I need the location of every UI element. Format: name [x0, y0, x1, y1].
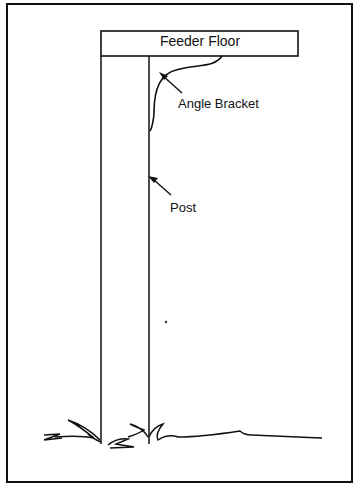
post-label: Post [170, 200, 196, 215]
figure-frame [7, 4, 352, 482]
grass-ground [44, 420, 322, 448]
bracket-pointer-arrow [163, 76, 182, 93]
angle-bracket-label: Angle Bracket [178, 96, 259, 111]
feeder-floor-label: Feeder Floor [102, 33, 298, 49]
diagram-canvas [0, 0, 364, 490]
post-pointer-arrow [154, 180, 171, 195]
angle-bracket [150, 56, 222, 131]
speck [165, 321, 167, 323]
